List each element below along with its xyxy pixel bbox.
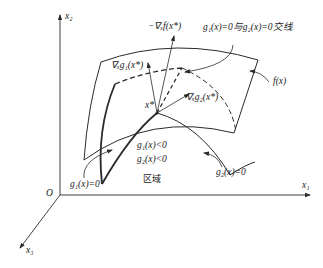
g2-boundary-label: g₂(x)=0 bbox=[216, 168, 246, 178]
surface-g2 bbox=[157, 68, 255, 175]
grad-g1-label: ∇ₓg₁(x*) bbox=[111, 61, 143, 71]
x3-axis bbox=[20, 195, 60, 248]
g1-negative-label: g₁(x)<0 bbox=[137, 141, 167, 151]
f-label: f(x) bbox=[273, 77, 286, 87]
surface-g1 bbox=[101, 68, 182, 184]
g2-negative-label: g₂(x)<0 bbox=[137, 155, 167, 165]
neg-grad-f-arrow bbox=[157, 36, 174, 113]
xstar-point bbox=[156, 112, 159, 115]
grad-g2-label: ∇ₓg₂(x*) bbox=[186, 93, 218, 103]
neg-grad-f-label: −∇ₓf(x*) bbox=[148, 22, 181, 32]
region-label: 区域 bbox=[143, 175, 161, 184]
g1-boundary-label: g₁(x)=0 bbox=[70, 180, 100, 190]
x3-axis-label: x₃ bbox=[26, 246, 34, 256]
xstar-label: x* bbox=[145, 101, 154, 111]
optimization-constraint-diagram bbox=[0, 0, 323, 268]
origin-label: O bbox=[46, 189, 53, 199]
x2-axis-label: x₂ bbox=[65, 12, 73, 22]
axes bbox=[20, 15, 310, 248]
intersection-label: g₁(x)=0与g₂(x)=0交线 bbox=[203, 23, 293, 33]
x1-axis-label: x₁ bbox=[302, 181, 310, 191]
